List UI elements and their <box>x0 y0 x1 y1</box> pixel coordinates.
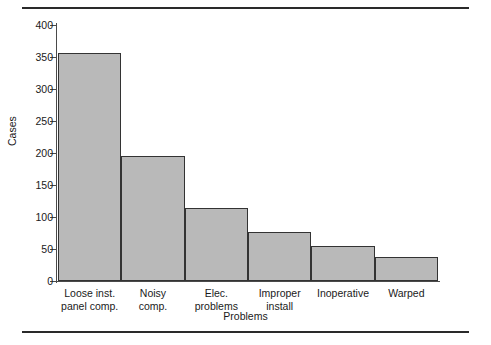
x-category-label: Loose inst.panel comp. <box>58 287 121 313</box>
x-category-label: Improperinstall <box>248 287 311 313</box>
y-tick-label: 200 <box>35 147 53 159</box>
bar <box>58 53 121 281</box>
y-tick-label: 250 <box>35 115 53 127</box>
y-tick-label: 100 <box>35 211 53 223</box>
x-category-label: Warped <box>375 287 438 300</box>
chart-page: Cases Problems 050100150200250300350400 … <box>0 0 491 345</box>
y-tick-label: 350 <box>35 51 53 63</box>
plot-area: 050100150200250300350400 Loose inst.pane… <box>58 25 438 281</box>
x-axis-line <box>56 281 440 282</box>
bar <box>248 232 311 281</box>
y-axis-title: Cases <box>6 116 18 146</box>
bar <box>311 246 374 281</box>
y-tick-label: 300 <box>35 83 53 95</box>
y-tick-label: 400 <box>35 19 53 31</box>
x-category-label: Inoperative <box>311 287 374 300</box>
bar <box>375 257 438 281</box>
y-axis-line <box>56 23 57 283</box>
x-category-label: Noisycomp. <box>121 287 184 313</box>
y-tick-label: 0 <box>47 275 53 287</box>
bar <box>185 208 248 281</box>
x-category-label: Elec.problems <box>185 287 248 313</box>
bar <box>121 156 184 281</box>
top-divider-rule <box>22 7 469 9</box>
bottom-divider-rule <box>22 331 469 333</box>
y-tick-label: 150 <box>35 179 53 191</box>
y-tick-label: 50 <box>41 243 53 255</box>
